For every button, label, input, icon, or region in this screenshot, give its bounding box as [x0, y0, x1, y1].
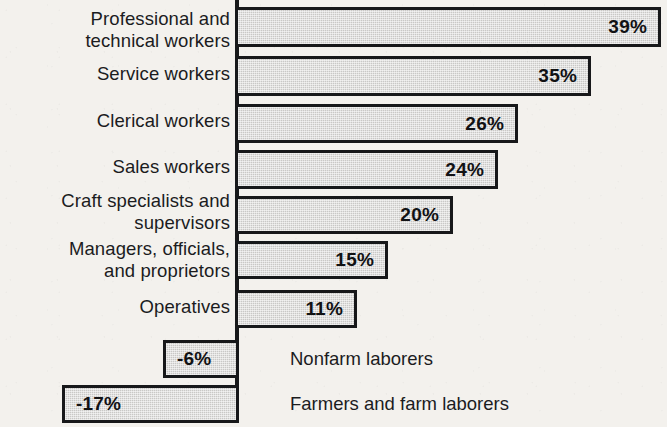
bar[interactable]: 11% [235, 290, 357, 328]
bar[interactable]: 15% [235, 241, 388, 279]
category-label: Service workers [0, 63, 230, 85]
bar-value-label: -6% [166, 348, 211, 370]
bar-chart: Professional and technical workers 39% S… [0, 0, 667, 427]
bar-value-label: 20% [400, 204, 450, 226]
bar-value-label: -17% [65, 393, 121, 415]
bar-value-label: 35% [538, 65, 588, 87]
bar[interactable]: -6% [163, 340, 239, 378]
bar[interactable]: 26% [235, 104, 518, 143]
bar-value-label: 11% [305, 298, 354, 320]
category-label: Craft specialists and supervisors [0, 190, 230, 234]
bar-value-label: 24% [445, 159, 495, 181]
bar-value-label: 26% [465, 113, 515, 135]
category-label: Farmers and farm laborers [290, 393, 509, 415]
category-label: Operatives [0, 296, 230, 318]
category-label: Nonfarm laborers [290, 348, 433, 370]
category-label: Professional and technical workers [0, 8, 230, 52]
bar[interactable]: 39% [235, 7, 661, 47]
bar[interactable]: 35% [235, 56, 591, 96]
bar[interactable]: 24% [235, 150, 498, 189]
bar[interactable]: -17% [62, 385, 239, 423]
bar-value-label: 39% [608, 16, 658, 38]
bar[interactable]: 20% [235, 196, 453, 234]
category-label: Managers, officials, and proprietors [0, 238, 230, 282]
category-label: Sales workers [0, 156, 230, 178]
bar-value-label: 15% [335, 249, 385, 271]
category-label: Clerical workers [0, 110, 230, 132]
